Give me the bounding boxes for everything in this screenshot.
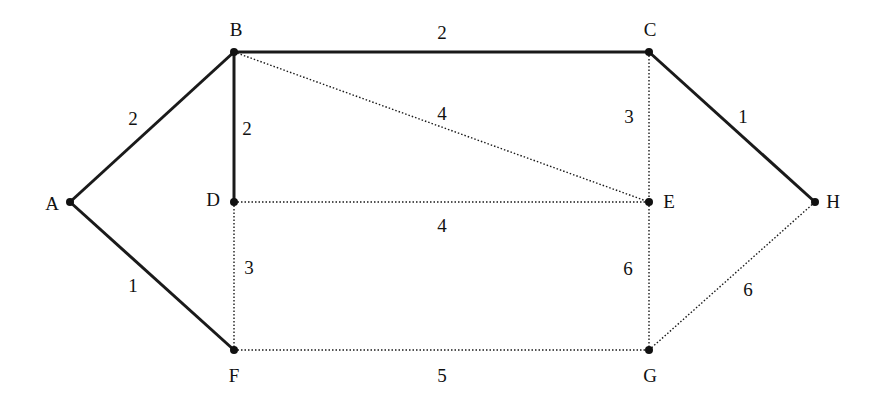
edge-weight-g-h: 6 — [743, 279, 753, 300]
graph-diagram: 212243143656 ABCDEHFG — [0, 0, 886, 407]
edge-weight-a-b: 2 — [128, 108, 138, 129]
edges-group — [70, 52, 815, 350]
node-labels-group: ABCDEHFG — [45, 19, 840, 386]
edge-a-b — [70, 52, 234, 202]
node-f — [230, 346, 238, 354]
edge-weight-f-g: 5 — [437, 365, 447, 386]
edge-g-h — [649, 202, 815, 350]
edge-b-e — [234, 52, 649, 202]
edge-weight-b-d: 2 — [242, 118, 252, 139]
node-g — [645, 346, 653, 354]
edge-weight-b-c: 2 — [437, 22, 447, 43]
edge-weight-e-g: 6 — [623, 258, 633, 279]
node-label-g: G — [643, 365, 657, 386]
node-label-h: H — [826, 191, 840, 212]
edge-weights-group: 212243143656 — [128, 22, 753, 386]
node-c — [645, 48, 653, 56]
edge-weight-c-e: 3 — [624, 106, 634, 127]
edge-weight-b-e: 4 — [437, 103, 447, 124]
node-label-a: A — [45, 193, 59, 214]
edge-a-f — [70, 202, 234, 350]
node-b — [230, 48, 238, 56]
node-label-d: D — [206, 189, 220, 210]
node-label-f: F — [229, 365, 240, 386]
node-e — [645, 198, 653, 206]
node-h — [811, 198, 819, 206]
node-a — [66, 198, 74, 206]
node-label-c: C — [644, 19, 657, 40]
edge-weight-c-h: 1 — [738, 106, 748, 127]
edge-weight-d-f: 3 — [244, 257, 254, 278]
edge-weight-d-e: 4 — [437, 215, 447, 236]
node-label-b: B — [230, 19, 243, 40]
node-label-e: E — [663, 191, 675, 212]
node-d — [230, 198, 238, 206]
edge-weight-a-f: 1 — [128, 275, 138, 296]
edge-c-h — [649, 52, 815, 202]
nodes-group — [66, 48, 819, 354]
